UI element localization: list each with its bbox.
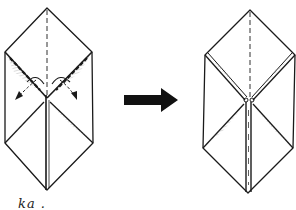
- caption-fragment: ka .: [18, 196, 46, 210]
- step-arrow-icon: [124, 88, 178, 112]
- step-before-figure: [5, 8, 93, 190]
- step-after-figure: [203, 10, 295, 193]
- origami-diagram: [0, 0, 296, 210]
